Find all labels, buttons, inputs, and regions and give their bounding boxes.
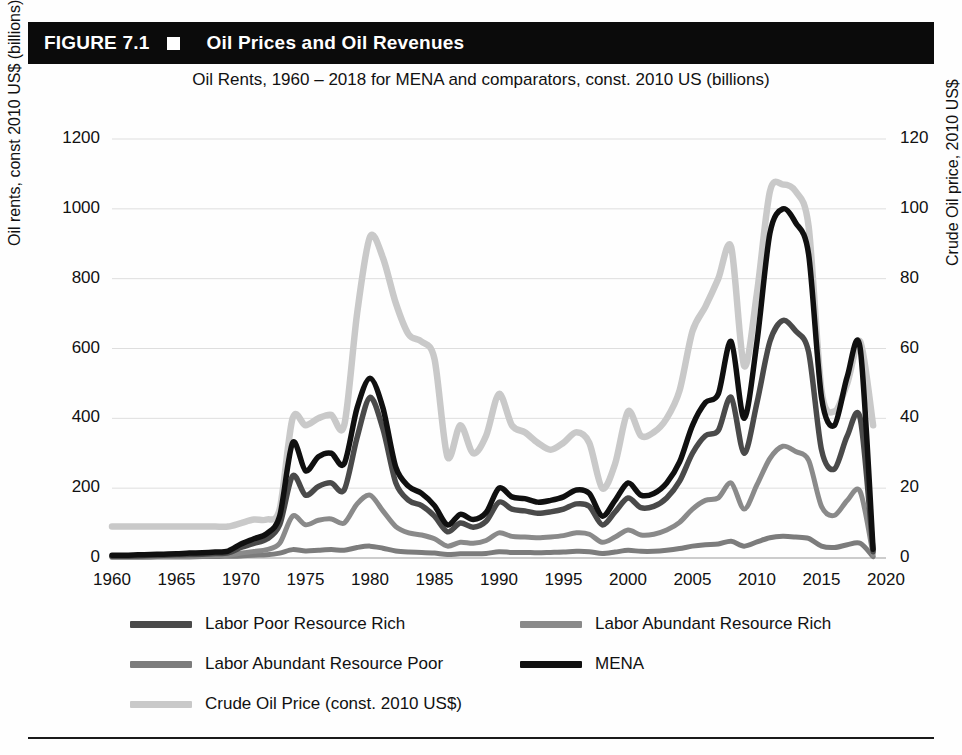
legend-item-label: Labor Abundant Resource Rich <box>595 614 831 634</box>
x-axis-tick-label: 2015 <box>792 570 852 590</box>
y2-axis-tick-label: 40 <box>900 407 962 427</box>
legend-item-label: Labor Abundant Resource Poor <box>205 654 443 674</box>
figure-header-bar: FIGURE 7.1 Oil Prices and Oil Revenues <box>28 22 934 64</box>
legend-item[interactable]: Labor Abundant Resource Rich <box>520 614 831 634</box>
y-axis-tick-label: 200 <box>38 477 100 497</box>
x-axis-tick-label: 1980 <box>340 570 400 590</box>
legend-color-swatch <box>130 701 192 708</box>
figure-number: FIGURE 7.1 <box>44 32 149 54</box>
y-axis-tick-label: 400 <box>38 407 100 427</box>
legend-color-swatch <box>520 621 582 628</box>
legend-color-swatch <box>130 621 192 628</box>
filled-square-icon <box>167 37 180 50</box>
legend-item[interactable]: MENA <box>520 654 644 674</box>
figure-page: FIGURE 7.1 Oil Prices and Oil Revenues O… <box>0 0 962 755</box>
x-axis-tick-label: 2000 <box>598 570 658 590</box>
y2-axis-tick-label: 0 <box>900 547 962 567</box>
legend-item[interactable]: Labor Abundant Resource Poor <box>130 654 443 674</box>
y2-axis-tick-label: 60 <box>900 338 962 358</box>
series-line <box>112 320 873 556</box>
y-axis-tick-label: 800 <box>38 268 100 288</box>
legend-item[interactable]: Labor Poor Resource Rich <box>130 614 405 634</box>
legend-color-swatch <box>130 661 192 668</box>
y2-axis-tick-label: 120 <box>900 128 962 148</box>
figure-title: Oil Prices and Oil Revenues <box>206 32 464 54</box>
x-axis-tick-label: 1985 <box>405 570 465 590</box>
chart-subtitle: Oil Rents, 1960 – 2018 for MENA and comp… <box>0 70 962 90</box>
chart-svg <box>0 96 962 596</box>
y2-axis-tick-label: 100 <box>900 198 962 218</box>
x-axis-tick-label: 2005 <box>663 570 723 590</box>
bottom-divider <box>28 737 934 739</box>
x-axis-tick-label: 1995 <box>534 570 594 590</box>
x-axis-tick-label: 1965 <box>147 570 207 590</box>
y-axis-tick-label: 0 <box>38 547 100 567</box>
chart-plot-area: Oil rents, const 2010 US$ (billions) Cru… <box>0 96 962 596</box>
y-axis-tick-label: 1000 <box>38 198 100 218</box>
x-axis-tick-label: 2010 <box>727 570 787 590</box>
x-axis-tick-label: 1970 <box>211 570 271 590</box>
y-axis-tick-label: 600 <box>38 338 100 358</box>
legend-item-label: Crude Oil Price (const. 2010 US$) <box>205 694 462 714</box>
x-axis-tick-label: 1960 <box>82 570 142 590</box>
chart-legend: Labor Poor Resource RichLabor Abundant R… <box>0 606 962 716</box>
y2-axis-tick-label: 20 <box>900 477 962 497</box>
x-axis-tick-label: 2020 <box>856 570 916 590</box>
y2-axis-tick-label: 80 <box>900 268 962 288</box>
legend-item-label: MENA <box>595 654 644 674</box>
y-axis-tick-label: 1200 <box>38 128 100 148</box>
x-axis-tick-label: 1975 <box>276 570 336 590</box>
legend-item-label: Labor Poor Resource Rich <box>205 614 405 634</box>
legend-item[interactable]: Crude Oil Price (const. 2010 US$) <box>130 694 462 714</box>
legend-color-swatch <box>520 661 582 668</box>
x-axis-tick-label: 1990 <box>469 570 529 590</box>
